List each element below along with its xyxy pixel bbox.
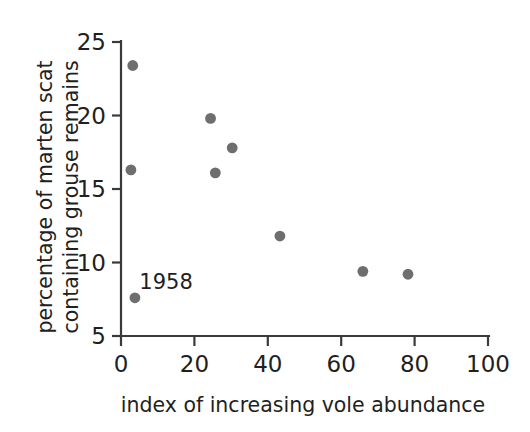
y-axis-title-line1: percentage of marten scat <box>33 60 57 333</box>
scatter-plot-figure: 510152025 020406080100 1958 index of inc… <box>0 0 530 432</box>
annotations-group: 1958 <box>139 270 192 294</box>
data-point-0 <box>127 60 138 71</box>
ticks-group <box>112 42 488 346</box>
data-points-group <box>126 60 414 303</box>
x-tick-label-80: 80 <box>400 351 429 377</box>
data-point-8 <box>130 292 141 303</box>
plot-canvas: 510152025 020406080100 1958 index of inc… <box>0 0 530 432</box>
x-tick-label-0: 0 <box>114 351 129 377</box>
data-point-3 <box>210 167 221 178</box>
data-point-4 <box>227 142 238 153</box>
data-point-7 <box>403 269 414 280</box>
y-axis-title-line2: containing grouse remains <box>59 60 83 333</box>
data-point-6 <box>357 266 368 277</box>
data-point-5 <box>275 231 286 242</box>
x-tick-label-40: 40 <box>253 351 282 377</box>
y-tick-label-5: 5 <box>91 323 106 349</box>
data-point-1 <box>126 164 137 175</box>
x-tick-labels: 020406080100 <box>114 351 510 377</box>
x-tick-label-20: 20 <box>180 351 209 377</box>
x-tick-label-100: 100 <box>466 351 510 377</box>
x-tick-label-60: 60 <box>327 351 356 377</box>
annotation-1958: 1958 <box>139 270 192 294</box>
data-point-2 <box>205 113 216 124</box>
y-tick-label-25: 25 <box>77 29 106 55</box>
x-axis-title: index of increasing vole abundance <box>121 393 485 417</box>
